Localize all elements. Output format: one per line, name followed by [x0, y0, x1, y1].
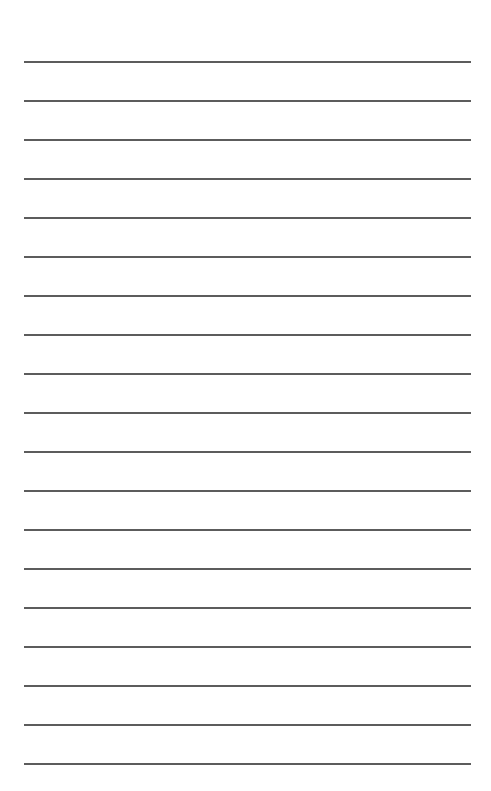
- ruled-line: [24, 529, 471, 531]
- ruled-line: [24, 139, 471, 141]
- ruled-line: [24, 334, 471, 336]
- ruled-line: [24, 607, 471, 609]
- ruled-line: [24, 568, 471, 570]
- ruled-line: [24, 256, 471, 258]
- ruled-line: [24, 295, 471, 297]
- ruled-line: [24, 724, 471, 726]
- ruled-line: [24, 685, 471, 687]
- ruled-line: [24, 373, 471, 375]
- lined-paper-page: [0, 0, 491, 791]
- ruled-line: [24, 451, 471, 453]
- ruled-line: [24, 217, 471, 219]
- ruled-line: [24, 100, 471, 102]
- ruled-line: [24, 646, 471, 648]
- ruled-line: [24, 412, 471, 414]
- ruled-line: [24, 490, 471, 492]
- ruled-line: [24, 178, 471, 180]
- ruled-line: [24, 763, 471, 765]
- ruled-line: [24, 61, 471, 63]
